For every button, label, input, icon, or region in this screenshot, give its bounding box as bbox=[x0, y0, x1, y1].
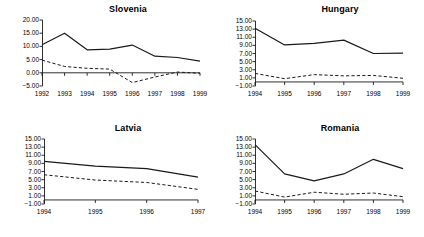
y-axis-tick-label: 13.00 bbox=[236, 26, 252, 33]
y-axis-tick-label: 5.00 bbox=[239, 176, 252, 183]
x-axis-tick-label: 1998 bbox=[366, 91, 380, 98]
y-axis-tick-label: 5.00 bbox=[28, 176, 41, 183]
y-axis-tick-label: 1.00 bbox=[239, 193, 252, 200]
y-axis-tick-label: 7.00 bbox=[28, 168, 41, 175]
x-axis-tick-label: 1997 bbox=[148, 91, 162, 98]
x-axis-tick-label: 1994 bbox=[248, 91, 262, 98]
y-axis-tick-label: 7.00 bbox=[239, 50, 252, 57]
plot-area-hungary: −1.001.003.005.007.009.0011.0013.0015.00… bbox=[255, 21, 403, 86]
y-axis-tick-label: 5.00 bbox=[26, 56, 39, 63]
y-axis-tick-label: 5.00 bbox=[239, 58, 252, 65]
y-axis-tick-label: 15.00 bbox=[236, 18, 252, 25]
chart-svg bbox=[255, 21, 403, 86]
x-axis-tick-label: 1996 bbox=[139, 209, 153, 216]
x-axis-tick-label: 1999 bbox=[193, 91, 207, 98]
data-series-solid bbox=[44, 161, 198, 177]
x-axis-tick-label: 1997 bbox=[337, 209, 351, 216]
y-axis-tick-label: 9.00 bbox=[239, 160, 252, 167]
chart-svg bbox=[42, 20, 200, 86]
chart-svg bbox=[44, 139, 198, 204]
y-axis-tick-label: 1.00 bbox=[239, 75, 252, 82]
y-axis-tick-label: 3.00 bbox=[28, 185, 41, 192]
y-axis-tick-label: 9.00 bbox=[28, 160, 41, 167]
chart-title-latvia: Latvia bbox=[0, 123, 234, 134]
x-axis-tick-label: 1998 bbox=[170, 91, 184, 98]
data-series-dashed bbox=[255, 191, 403, 197]
y-axis-tick-label: 11.00 bbox=[236, 152, 252, 159]
y-axis-tick-label: 10.00 bbox=[23, 43, 39, 50]
y-axis-tick-label: −1.00 bbox=[236, 83, 252, 90]
y-axis-tick-label: 20.00 bbox=[23, 17, 39, 24]
y-axis-tick-label: 0.00 bbox=[26, 70, 39, 77]
x-axis-tick-label: 1997 bbox=[191, 209, 205, 216]
data-series-dashed bbox=[44, 175, 198, 190]
x-axis-tick-label: 1998 bbox=[366, 209, 380, 216]
x-axis-tick-label: 1996 bbox=[307, 91, 321, 98]
data-series-solid bbox=[255, 28, 403, 53]
plot-area-romania: −1.001.003.005.007.009.0011.0013.0015.00… bbox=[255, 139, 403, 204]
x-axis-tick-label: 1995 bbox=[277, 91, 291, 98]
y-axis-tick-label: 13.00 bbox=[236, 144, 252, 151]
data-series-dashed bbox=[255, 73, 403, 78]
x-axis-tick-label: 1997 bbox=[337, 91, 351, 98]
x-axis-tick-label: 1994 bbox=[37, 209, 51, 216]
chart-panel-hungary: Hungary −1.001.003.005.007.009.0011.0013… bbox=[212, 0, 424, 119]
x-axis-tick-label: 1999 bbox=[396, 91, 410, 98]
y-axis-tick-label: −1.00 bbox=[25, 201, 41, 208]
chart-grid: Slovenia −5.000.005.0010.0015.0020.00199… bbox=[0, 0, 424, 237]
x-axis-tick-label: 1995 bbox=[102, 91, 116, 98]
data-series-solid bbox=[255, 145, 403, 181]
y-axis-tick-label: 15.00 bbox=[25, 136, 41, 143]
y-axis-tick-label: −1.00 bbox=[236, 201, 252, 208]
data-series-solid bbox=[42, 33, 200, 61]
y-axis-tick-label: 3.00 bbox=[239, 67, 252, 74]
y-axis-tick-label: 15.00 bbox=[23, 30, 39, 37]
y-axis-tick-label: 15.00 bbox=[236, 136, 252, 143]
x-axis-tick-label: 1992 bbox=[35, 91, 49, 98]
plot-area-latvia: −1.001.003.005.007.009.0011.0013.0015.00… bbox=[44, 139, 198, 204]
plot-area-slovenia: −5.000.005.0010.0015.0020.00199219931994… bbox=[42, 20, 200, 86]
chart-title-romania: Romania bbox=[212, 123, 424, 134]
y-axis-tick-label: 11.00 bbox=[25, 152, 41, 159]
chart-svg bbox=[255, 139, 403, 204]
y-axis-tick-label: 3.00 bbox=[239, 185, 252, 192]
y-axis-tick-label: 11.00 bbox=[236, 34, 252, 41]
chart-title-hungary: Hungary bbox=[212, 4, 424, 15]
y-axis-tick-label: 9.00 bbox=[239, 42, 252, 49]
chart-panel-romania: Romania −1.001.003.005.007.009.0011.0013… bbox=[212, 119, 424, 237]
x-axis-tick-label: 1993 bbox=[57, 91, 71, 98]
x-axis-tick-label: 1996 bbox=[125, 91, 139, 98]
x-axis-tick-label: 1995 bbox=[277, 209, 291, 216]
data-series-dashed bbox=[42, 60, 200, 82]
x-axis-tick-label: 1994 bbox=[248, 209, 262, 216]
chart-panel-slovenia: Slovenia −5.000.005.0010.0015.0020.00199… bbox=[0, 0, 212, 119]
y-axis-tick-label: −5.00 bbox=[23, 83, 39, 90]
y-axis-tick-label: 1.00 bbox=[28, 193, 41, 200]
x-axis-tick-label: 1994 bbox=[80, 91, 94, 98]
x-axis-tick-label: 1999 bbox=[396, 209, 410, 216]
x-axis-tick-label: 1995 bbox=[88, 209, 102, 216]
x-axis-tick-label: 1996 bbox=[307, 209, 321, 216]
y-axis-tick-label: 13.00 bbox=[25, 144, 41, 151]
chart-title-slovenia: Slovenia bbox=[0, 4, 234, 15]
chart-panel-latvia: Latvia −1.001.003.005.007.009.0011.0013.… bbox=[0, 119, 212, 237]
y-axis-tick-label: 7.00 bbox=[239, 168, 252, 175]
